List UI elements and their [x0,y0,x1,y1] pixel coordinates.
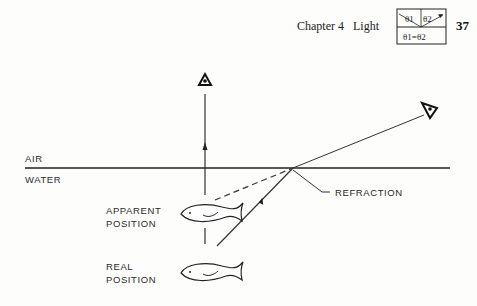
equality-label: θ1=θ2 [403,32,426,42]
reflection-inset-box: θ1 θ2 θ1=θ2 [397,9,446,44]
real-fish [181,262,243,281]
eye-side-icon [422,103,437,118]
apparent-label-line1: APPARENT [106,204,161,217]
eye-above-icon [199,74,211,85]
air-label: AIR [25,152,43,165]
refraction-leader [293,170,330,192]
theta1-label: θ1 [405,14,414,24]
theta2-label: θ2 [423,14,432,24]
real-label-line2: POSITION [106,273,156,286]
real-label-line1: REAL [106,260,156,273]
apparent-label-line2: POSITION [106,217,161,230]
refracted-ray [293,115,424,168]
vertical-ray-arrow-icon [203,142,208,150]
book-page: Chapter 4Light 37 θ1 θ2 θ1=θ2 [0,0,477,306]
refraction-label: REFRACTION [335,186,403,199]
apparent-position-label: APPARENT POSITION [106,204,161,230]
apparent-fish [181,203,243,222]
dashed-projection [215,168,293,200]
real-position-label: REAL POSITION [106,260,156,286]
water-label: WATER [25,173,61,186]
refraction-diagram: θ1 θ2 θ1=θ2 [0,0,477,306]
light-ray [217,168,293,246]
